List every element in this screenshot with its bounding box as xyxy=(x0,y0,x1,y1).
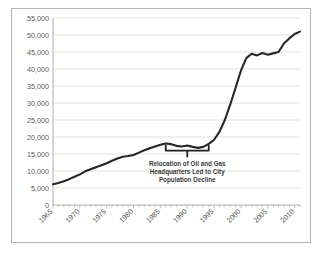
y-axis-tick-label: 40,000 xyxy=(27,65,49,74)
line-chart-svg: 05,00010,00015,00020,00025,00030,00035,0… xyxy=(12,9,310,242)
x-axis-tick-label: 1970 xyxy=(64,207,82,225)
y-axis-tick-label: 50,000 xyxy=(27,31,49,40)
y-axis-tick-label: 5,000 xyxy=(31,184,49,193)
y-axis-tick-label: 35,000 xyxy=(27,82,49,91)
x-axis-tick-label: 1980 xyxy=(117,207,135,225)
x-axis-tick-label: 2010 xyxy=(278,207,296,225)
y-axis-tick-label: 10,000 xyxy=(27,167,49,176)
x-axis-tick-label: 1975 xyxy=(90,207,108,225)
y-axis-tick-label: 25,000 xyxy=(27,116,49,125)
x-axis-tick-label: 1965 xyxy=(37,207,55,225)
x-axis-tick-label: 1985 xyxy=(144,207,162,225)
annotation-text-line: Relocation of Oil and Gas xyxy=(149,160,226,167)
chart-figure: 05,00010,00015,00020,00025,00030,00035,0… xyxy=(0,0,321,257)
y-axis-tick-label: 30,000 xyxy=(27,99,49,108)
x-axis-tick-label: 2000 xyxy=(225,207,243,225)
y-axis-tick-label: 45,000 xyxy=(27,48,49,57)
x-axis-tick-label: 2005 xyxy=(252,207,270,225)
y-axis-tick-label: 15,000 xyxy=(27,150,49,159)
annotation-text-line: Headquarters Led to City xyxy=(150,168,225,176)
x-axis-tick-label: 1995 xyxy=(198,207,216,225)
y-axis-tick-label: 20,000 xyxy=(27,133,49,142)
y-axis-tick-label: 55,000 xyxy=(27,14,49,23)
chart-plot-frame: 05,00010,00015,00020,00025,00030,00035,0… xyxy=(11,8,311,243)
annotation-text-line: Population Decline xyxy=(159,176,216,184)
x-axis-tick-label: 1990 xyxy=(171,207,189,225)
